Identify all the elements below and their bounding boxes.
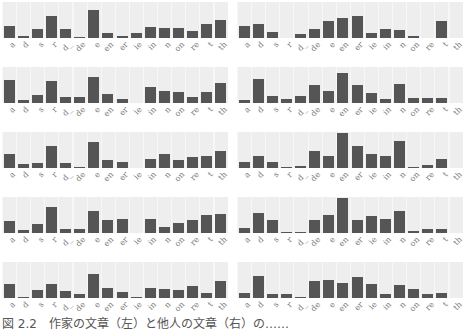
x-tick-label: r [285, 105, 294, 114]
bar [309, 29, 320, 38]
bar [131, 33, 142, 38]
x-tick-label: d [21, 40, 31, 50]
bar [215, 151, 226, 168]
plot-area [237, 197, 463, 233]
x-tick-label: t [206, 170, 215, 179]
x-tick-label: d [256, 300, 266, 310]
bar [366, 154, 377, 168]
bar [394, 211, 405, 233]
bar [436, 21, 447, 38]
bar [117, 36, 128, 38]
x-tick-label: r [50, 170, 59, 179]
bar [295, 166, 306, 168]
bar [380, 294, 391, 298]
x-tick-label: t [441, 235, 450, 244]
x-tick-label: de [74, 40, 87, 53]
bar [102, 94, 113, 103]
bar [18, 36, 29, 38]
x-tick-label: d [256, 170, 266, 180]
bar [145, 219, 156, 233]
x-tick-label: s [36, 300, 45, 309]
x-tick-label: a [242, 300, 252, 310]
bar [4, 26, 15, 38]
x-tick-label: d_ [61, 105, 74, 118]
x-tick-label: en [102, 170, 115, 183]
x-tick-label: in [381, 105, 393, 117]
x-tick-label: in [381, 300, 393, 312]
bar [18, 297, 29, 298]
bar [187, 220, 198, 233]
bar [281, 232, 292, 233]
bar [366, 93, 377, 103]
x-tick-label: r [285, 300, 294, 309]
bar [380, 219, 391, 233]
x-tick-label: ie [132, 300, 144, 312]
bar [281, 99, 292, 103]
bar [32, 163, 43, 168]
bar [32, 29, 43, 38]
x-tick-label: e [92, 235, 102, 245]
x-tick-label: th [451, 40, 463, 52]
x-tick-label: en [102, 300, 115, 313]
bar [88, 77, 99, 103]
bar [102, 33, 113, 38]
x-tick-label: er [117, 170, 129, 182]
x-tick-label: in [146, 105, 158, 117]
x-tick-label: e [327, 235, 337, 245]
bar-panel-row4-right: adsrd_deeenerieinnonretth [237, 197, 463, 259]
x-tick-label: a [242, 105, 252, 115]
x-tick-label: th [451, 105, 463, 117]
x-tick-label: en [337, 300, 350, 313]
bar [394, 285, 405, 298]
x-tick-label: a [7, 235, 17, 245]
x-tick-label: ie [367, 300, 379, 312]
x-tick-label: th [216, 40, 228, 52]
x-tick-label: de [309, 235, 322, 248]
bar-panel-row4-left: adsrd_deeenerieinnonretth [2, 197, 228, 259]
bar [88, 142, 99, 168]
bar [408, 167, 419, 168]
x-tick-label: en [102, 235, 115, 248]
bar [215, 214, 226, 233]
bar [239, 228, 250, 233]
x-tick-label: er [117, 235, 129, 247]
x-tick-label: n [397, 235, 407, 245]
plot-area [2, 262, 228, 298]
bar [215, 83, 226, 103]
bar [102, 220, 113, 233]
bar [380, 99, 391, 103]
x-tick-label: er [117, 300, 129, 312]
x-tick-label: re [188, 40, 200, 52]
x-tick-label: on [173, 105, 186, 118]
bar [267, 96, 278, 103]
bar [145, 288, 156, 298]
bar [253, 276, 264, 298]
bar [253, 213, 264, 233]
figure-caption: 図 2.2 作家の文章（左）と他人の文章（右）の…… [2, 314, 289, 331]
bar [352, 16, 363, 38]
bar [366, 33, 377, 38]
x-tick-label: s [271, 105, 280, 114]
x-tick-label: n [162, 170, 172, 180]
bar [380, 29, 391, 38]
plot-area [237, 262, 463, 298]
bar-panel-row2-right: adsrd_deeenerieinnonretth [237, 67, 463, 129]
bar-panel-row2-left: adsrd_deeenerieinnonretth [2, 67, 228, 129]
x-tick-label: e [327, 40, 337, 50]
x-tick-label: de [74, 235, 87, 248]
bar [187, 157, 198, 168]
x-tick-label: d_ [61, 170, 74, 183]
x-tick-label: ie [367, 170, 379, 182]
x-tick-label: a [242, 235, 252, 245]
x-tick-label: d_ [296, 105, 309, 118]
bar [281, 167, 292, 168]
x-tick-label: on [173, 300, 186, 313]
bar [60, 229, 71, 233]
x-tick-label: s [36, 235, 45, 244]
x-tick-label: ie [132, 235, 144, 247]
bar [201, 156, 212, 168]
bar [422, 165, 433, 168]
x-tick-label: th [216, 170, 228, 182]
bar [436, 98, 447, 103]
bar [46, 146, 57, 168]
